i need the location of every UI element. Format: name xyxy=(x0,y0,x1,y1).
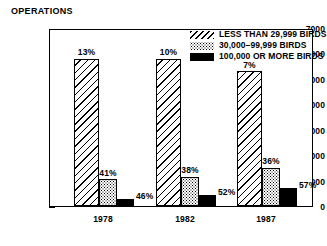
bar xyxy=(199,195,216,206)
bar xyxy=(262,168,280,206)
bar-value-label: 10% xyxy=(160,47,177,57)
bar-value-label: 38% xyxy=(181,165,198,175)
legend-label: 30,000–99,999 BIRDS xyxy=(219,41,306,50)
bar xyxy=(74,59,99,206)
x-axis-tick-label: 1982 xyxy=(175,214,195,224)
legend-swatch-icon xyxy=(190,42,214,50)
bar-value-label: 46% xyxy=(136,191,153,201)
bar-value-label: 52% xyxy=(218,187,235,197)
bar-value-label: 13% xyxy=(78,47,95,57)
bar xyxy=(181,177,199,206)
bar xyxy=(117,199,134,206)
legend-swatch-icon xyxy=(190,53,214,61)
bar-value-label: 57% xyxy=(299,180,316,190)
legend-swatch-icon xyxy=(190,31,214,39)
chart-legend: LESS THAN 29,999 BIRDS30,000–99,999 BIRD… xyxy=(190,30,327,63)
x-axis-tick-label: 1978 xyxy=(93,214,113,224)
bar-value-label: 41% xyxy=(99,168,116,178)
legend-label: 100,000 OR MORE BIRDS xyxy=(219,52,324,61)
bar xyxy=(280,188,297,206)
y-axis-tick xyxy=(49,207,55,208)
bar xyxy=(237,71,262,206)
chart-title: OPERATIONS xyxy=(11,6,73,16)
legend-item: 30,000–99,999 BIRDS xyxy=(190,41,327,51)
bar-value-label: 36% xyxy=(262,156,279,166)
x-axis-tick-label: 1987 xyxy=(256,214,276,224)
bar xyxy=(99,179,117,206)
bar xyxy=(156,59,181,206)
legend-label: LESS THAN 29,999 BIRDS xyxy=(219,30,327,39)
legend-item: LESS THAN 29,999 BIRDS xyxy=(190,30,327,40)
legend-item: 100,000 OR MORE BIRDS xyxy=(190,52,327,62)
